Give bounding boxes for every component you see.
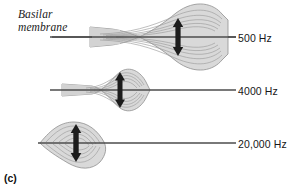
frequency-label-4000: 4000 Hz bbox=[238, 85, 278, 97]
frequency-label-500: 500 Hz bbox=[238, 32, 272, 44]
basilar-membrane-label: Basilar membrane bbox=[18, 8, 98, 34]
basilar-membrane-label-line2: membrane bbox=[18, 21, 98, 34]
frequency-label-20000: 20,000 Hz bbox=[238, 138, 287, 150]
panel-letter: (c) bbox=[4, 172, 17, 184]
envelope-group-4000 bbox=[50, 69, 236, 111]
basilar-membrane-label-line1: Basilar bbox=[18, 8, 98, 21]
envelope-group-20000 bbox=[38, 122, 236, 168]
basilar-membrane-figure: Basilar membrane 500 Hz 4000 Hz 20,000 H… bbox=[0, 0, 301, 192]
